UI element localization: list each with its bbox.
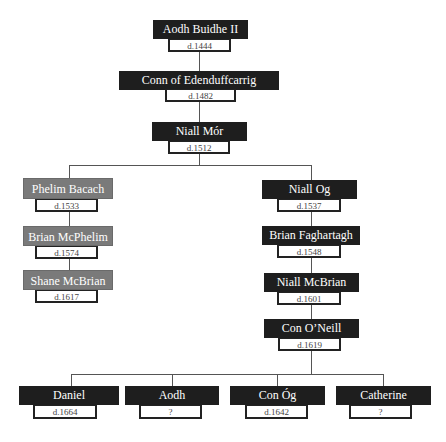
- connector-line: [199, 153, 200, 165]
- person-death-date: ?: [139, 405, 202, 419]
- person-name: Aodh: [125, 386, 219, 405]
- connector-line: [172, 374, 173, 386]
- person-death-date: d.1444: [168, 39, 231, 52]
- person-name: Aodh Buidhe II: [153, 20, 248, 39]
- connector-line: [311, 212, 312, 226]
- person-death-date: d.1548: [277, 245, 341, 258]
- person-name: Niall McBrian: [264, 273, 359, 292]
- person-death-date: d.1482: [165, 89, 236, 102]
- person-death-date: d.1574: [35, 246, 98, 259]
- person-name: Conn of Edenduffcarrig: [119, 71, 279, 90]
- person-name: Phelim Bacach: [23, 178, 113, 199]
- person-name: Niall Mór: [152, 122, 247, 141]
- person-death-date: d.1537: [277, 199, 341, 212]
- connector-line: [199, 52, 200, 71]
- connector-line: [69, 259, 70, 270]
- connector-line: [311, 351, 312, 374]
- person-name: Con O’Neill: [264, 319, 359, 338]
- connector-line: [311, 165, 312, 180]
- connector-line: [69, 212, 70, 226]
- person-name: Niall Og: [262, 180, 357, 199]
- connector-line: [71, 374, 384, 375]
- person-death-date: d.1619: [278, 338, 341, 351]
- connector-line: [69, 165, 312, 166]
- person-death-date: d.1617: [35, 290, 98, 303]
- connector-line: [311, 305, 312, 319]
- person-death-date: ?: [349, 405, 412, 419]
- person-name: Brian McPhelim: [23, 226, 113, 246]
- person-name: Catherine: [336, 386, 431, 405]
- connector-line: [199, 102, 200, 122]
- person-death-date: d.1642: [245, 405, 308, 419]
- connector-line: [69, 165, 70, 178]
- person-name: Con Óg: [230, 386, 325, 405]
- person-name: Daniel: [19, 386, 119, 405]
- person-death-date: d.1512: [168, 141, 230, 154]
- person-death-date: d.1601: [277, 292, 341, 305]
- person-name: Brian Faghartagh: [262, 226, 360, 245]
- person-name: Shane McBrian: [23, 270, 113, 290]
- person-death-date: d.1664: [33, 405, 97, 419]
- connector-line: [277, 374, 278, 386]
- person-death-date: d.1533: [35, 199, 98, 212]
- connector-line: [383, 374, 384, 386]
- connector-line: [311, 258, 312, 273]
- connector-line: [71, 374, 72, 386]
